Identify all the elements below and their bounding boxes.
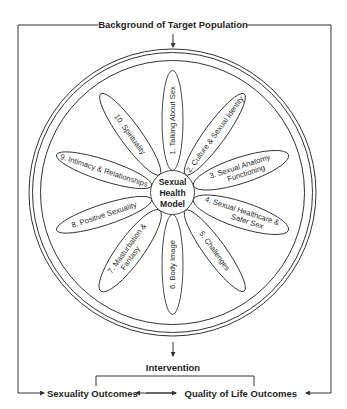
intervention-section: Intervention — [96, 342, 254, 386]
hub-label-line2: Health — [159, 188, 185, 198]
petal-1-label: 1. Talking About Sex — [168, 86, 177, 155]
petal-6-label: 6. Body Image — [168, 240, 177, 289]
wheel: Sexual Health Model 1. Talking About Sex… — [29, 49, 316, 336]
quality-of-life-outcomes-label: Quality of Life Outcomes — [185, 388, 297, 399]
sexual-health-model-diagram: Background of Target Population Sexual H… — [0, 0, 347, 409]
sexuality-outcomes-label: Sexuality Outcomes — [47, 388, 138, 399]
intervention-label: Intervention — [146, 362, 201, 373]
outcomes-section: Sexuality Outcomes Quality of Life Outco… — [47, 388, 297, 399]
intervention-bracket — [96, 376, 254, 386]
background-of-target-population-label: Background of Target Population — [98, 19, 248, 30]
hub-label-line1: Sexual — [159, 177, 187, 187]
hub-label-line3: Model — [160, 199, 185, 209]
